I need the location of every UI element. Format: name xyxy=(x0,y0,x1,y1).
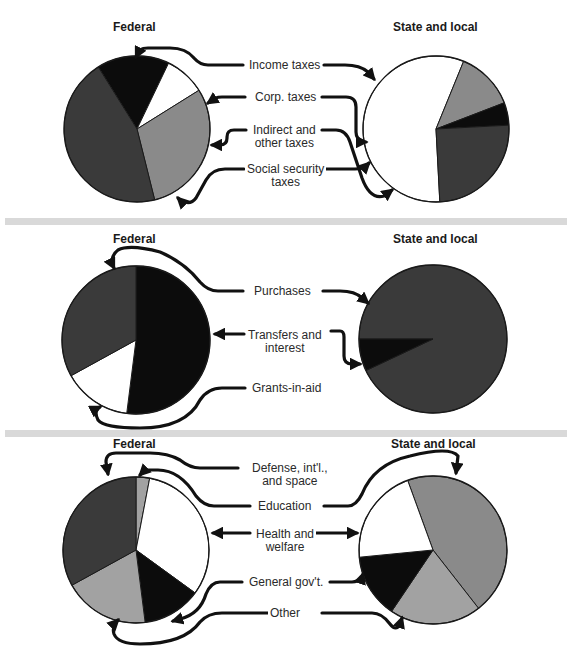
pie-slice xyxy=(127,266,210,414)
arrow-general-state xyxy=(330,574,363,582)
pie-state-functions xyxy=(359,476,507,624)
label-health-welfare: Health andwelfare xyxy=(254,528,316,554)
arrow-other-state xyxy=(322,613,402,628)
label-indirect-taxes: Indirect andother taxes xyxy=(251,124,318,150)
arrow-purchases-state xyxy=(323,291,368,303)
pie-federal-functions xyxy=(63,477,209,623)
label-education: Education xyxy=(256,500,313,513)
pie-state-expenditures xyxy=(359,265,507,413)
arrow-indirect-federal xyxy=(212,130,246,145)
label-grants-in-aid: Grants-in-aid xyxy=(250,382,323,395)
arrow-income-state xyxy=(324,65,374,79)
pie-federal-expenditures xyxy=(62,266,210,414)
arrow-defense-federal xyxy=(106,453,238,474)
label-purchases: Purchases xyxy=(252,285,313,298)
arrow-corp-state xyxy=(322,97,366,142)
label-transfers-interest: Transfers andinterest xyxy=(246,329,324,355)
pie-slice xyxy=(436,125,509,202)
label-corp-taxes: Corp. taxes xyxy=(253,91,318,104)
label-social-security-taxes: Social securitytaxes xyxy=(245,163,326,189)
arrow-corp-federal xyxy=(208,97,245,103)
label-general-govt: General gov't. xyxy=(247,576,325,589)
pie-federal-receipts xyxy=(64,56,210,202)
label-income-taxes: Income taxes xyxy=(247,59,322,72)
arrow-transfers-state xyxy=(331,331,360,364)
label-defense: Defense, int'l.,and space xyxy=(250,462,330,488)
label-other: Other xyxy=(268,607,302,620)
arrow-social-state xyxy=(324,163,369,169)
pie-state-receipts xyxy=(363,56,509,202)
